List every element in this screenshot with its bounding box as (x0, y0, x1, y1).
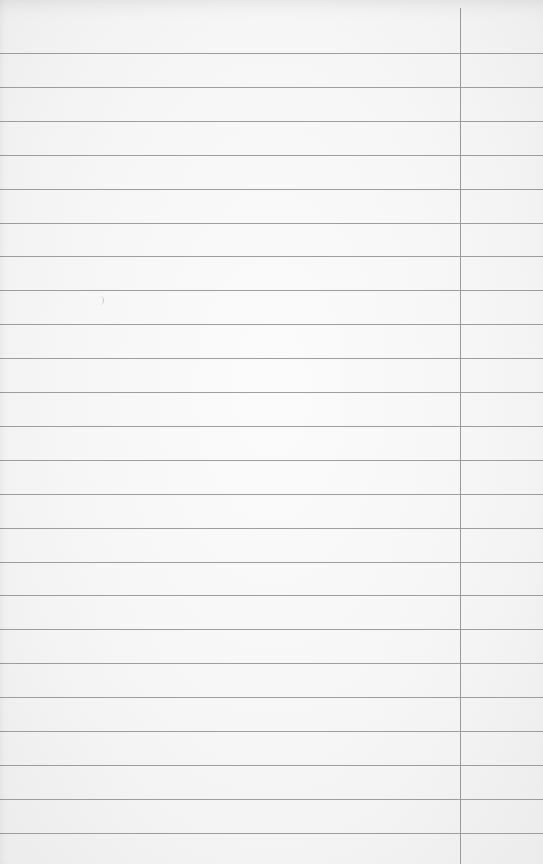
ruled-line (0, 460, 543, 461)
ruled-line (0, 256, 543, 257)
ruled-line (0, 324, 543, 325)
ruled-line (0, 562, 543, 563)
ruled-line (0, 121, 543, 122)
margin-line (460, 8, 461, 864)
ruled-line (0, 697, 543, 698)
ruled-line (0, 426, 543, 427)
ruled-line (0, 53, 543, 54)
ruled-line (0, 629, 543, 630)
paper-edge-shading (0, 0, 543, 864)
ruled-line (0, 290, 543, 291)
stray-pencil-mark (99, 296, 104, 305)
ruled-line (0, 765, 543, 766)
ruled-line (0, 155, 543, 156)
ruled-line (0, 223, 543, 224)
ruled-line (0, 663, 543, 664)
ruled-line (0, 595, 543, 596)
ruled-line (0, 87, 543, 88)
ruled-line (0, 494, 543, 495)
ruled-line (0, 358, 543, 359)
lined-paper-sheet (0, 0, 543, 864)
ruled-line (0, 833, 543, 834)
ruled-line (0, 392, 543, 393)
ruled-line (0, 189, 543, 190)
ruled-line (0, 528, 543, 529)
ruled-line (0, 799, 543, 800)
ruled-line (0, 731, 543, 732)
